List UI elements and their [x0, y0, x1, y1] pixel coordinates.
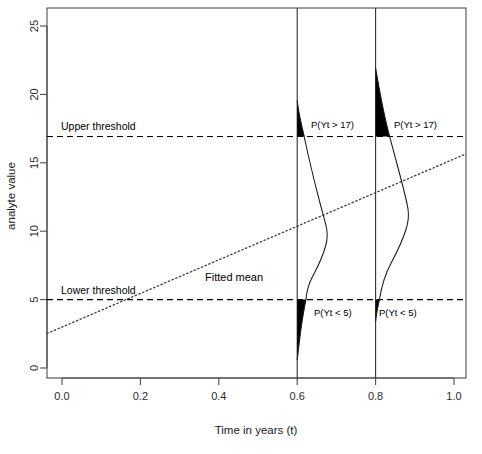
y-tick-label-5: 5 — [28, 297, 40, 303]
y-tick-group — [40, 26, 47, 368]
prob-upper-label-t060: P(Yt > 17) — [311, 119, 354, 130]
y-tick-label-15: 15 — [28, 157, 40, 169]
y-axis-title: analyte value — [5, 162, 17, 230]
x-tick-label-0.8: 0.8 — [368, 390, 383, 402]
y-tick-label-20: 20 — [28, 88, 40, 100]
density-at-t-0.6: P(Yt > 17) P(Yt < 5) — [297, 101, 354, 361]
x-tick-label-0.6: 0.6 — [290, 390, 305, 402]
chart-figure: 0 5 10 15 20 25 0.0 0.2 0.4 0.6 0.8 1.0 — [0, 0, 482, 454]
upper-threshold-label: Upper threshold — [61, 120, 136, 132]
prob-lower-label-t060: P(Yt < 5) — [314, 307, 352, 318]
prob-upper-label-t080: P(Yt > 17) — [394, 119, 437, 130]
y-tick-label-10: 10 — [28, 225, 40, 237]
x-tick-label-1.0: 1.0 — [446, 390, 461, 402]
y-tick-label-0: 0 — [28, 365, 40, 371]
lower-threshold-label: Lower threshold — [61, 284, 136, 296]
x-tick-group — [62, 378, 454, 385]
plot-canvas: 0 5 10 15 20 25 0.0 0.2 0.4 0.6 0.8 1.0 — [0, 0, 482, 454]
x-axis: 0.0 0.2 0.4 0.6 0.8 1.0 — [54, 378, 461, 402]
prob-lower-label-t080: P(Yt < 5) — [379, 307, 417, 318]
y-axis: 0 5 10 15 20 25 — [28, 20, 47, 371]
fitted-mean-label: Fitted mean — [205, 271, 263, 283]
x-tick-label-0.2: 0.2 — [133, 390, 148, 402]
y-tick-label-25: 25 — [28, 20, 40, 32]
x-axis-title: Time in years (t) — [215, 424, 298, 436]
x-tick-label-0.4: 0.4 — [211, 390, 226, 402]
plot-box — [47, 8, 466, 378]
density-at-t-0.8: P(Yt > 17) P(Yt < 5) — [376, 68, 437, 322]
density-outline-t060 — [297, 101, 327, 361]
x-tick-label-0.0: 0.0 — [54, 390, 69, 402]
